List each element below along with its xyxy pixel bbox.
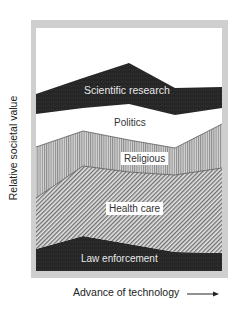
label-religious: Religious xyxy=(121,152,168,165)
x-axis-arrow-icon xyxy=(187,292,219,297)
label-health-care: Health care xyxy=(106,202,163,215)
label-politics: Politics xyxy=(114,117,146,128)
label-scientific-research: Scientific research xyxy=(84,84,170,96)
x-axis-label: Advance of technology xyxy=(73,286,179,298)
y-axis-label: Relative societal value xyxy=(7,96,19,200)
label-law-enforcement: Law enforcement xyxy=(81,253,158,264)
